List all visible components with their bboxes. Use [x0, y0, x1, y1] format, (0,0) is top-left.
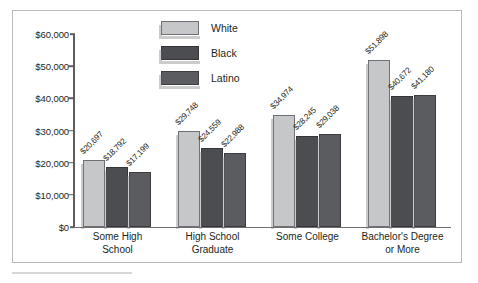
bar-white-3[interactable] — [273, 115, 295, 227]
legend-item-latino[interactable]: Latino — [161, 69, 291, 91]
bar-value-label: $22,988 — [220, 123, 246, 149]
bar-latino-2[interactable] — [224, 153, 246, 227]
bar-group: $20,697$18,792$17,199 — [83, 34, 152, 227]
white-swatch — [161, 21, 199, 35]
y-axis-tick-label: $10,000 — [35, 189, 69, 200]
chart-frame: $0$10,000$20,000$30,000$40,000$50,000$60… — [12, 10, 462, 263]
y-axis-tick-label: $30,000 — [35, 125, 69, 136]
bar-latino-4[interactable] — [414, 95, 436, 227]
bar-value-label: $28,245 — [292, 106, 318, 132]
bar-black-2[interactable] — [201, 148, 223, 227]
chart-legend: WhiteBlackLatino — [161, 19, 291, 94]
y-axis-tick-label: $60,000 — [35, 29, 69, 40]
bar-value-label: $17,199 — [125, 141, 151, 167]
category-label-line: Graduate — [158, 244, 268, 257]
page-edge-artifact — [12, 272, 132, 274]
bar-value-label: $41,180 — [410, 64, 436, 90]
bar-black-3[interactable] — [296, 136, 318, 227]
bar-value-label: $18,792 — [102, 136, 128, 162]
y-axis-labels: $0$10,000$20,000$30,000$40,000$50,000$60… — [13, 11, 69, 262]
legend-item-black[interactable]: Black — [161, 44, 291, 66]
category-label-line: or More — [348, 244, 458, 257]
bar-white-2[interactable] — [178, 131, 200, 227]
legend-item-white[interactable]: White — [161, 19, 291, 41]
latino-swatch — [161, 71, 199, 85]
category-label-line: Some College — [253, 231, 363, 244]
x-axis-category-label: Some College — [253, 231, 363, 244]
bar-value-label: $29,038 — [315, 103, 341, 129]
bar-value-label: $24,559 — [197, 118, 223, 144]
y-axis-tick-label: $20,000 — [35, 157, 69, 168]
x-axis-category-label: Some HighSchool — [63, 231, 173, 256]
category-label-line: School — [63, 244, 173, 257]
bar-white-1[interactable] — [83, 160, 105, 227]
bar-value-label: $20,697 — [79, 130, 105, 156]
legend-item-label: Black — [211, 44, 237, 63]
category-label-line: High School — [158, 231, 268, 244]
category-label-line: Bachelor's Degree — [348, 231, 458, 244]
x-axis-category-label: Bachelor's Degreeor More — [348, 231, 458, 256]
y-axis-tick-label: $50,000 — [35, 61, 69, 72]
bar-value-label: $51,898 — [364, 30, 390, 56]
bar-black-1[interactable] — [106, 167, 128, 227]
category-label-line: Some High — [63, 231, 173, 244]
x-axis-category-label: High SchoolGraduate — [158, 231, 268, 256]
legend-item-label: Latino — [211, 69, 240, 88]
bar-value-label: $40,672 — [387, 66, 413, 92]
black-swatch — [161, 46, 199, 60]
bar-value-label: $29,748 — [174, 101, 200, 127]
bar-group: $51,898$40,672$41,180 — [368, 34, 437, 227]
y-axis-tick-label: $40,000 — [35, 93, 69, 104]
bar-chart-plot-area: $0$10,000$20,000$30,000$40,000$50,000$60… — [13, 11, 461, 262]
bar-latino-3[interactable] — [319, 134, 341, 227]
legend-item-label: White — [211, 19, 238, 38]
bar-latino-1[interactable] — [129, 172, 151, 227]
x-axis-category-labels: Some HighSchoolHigh SchoolGraduateSome C… — [73, 231, 453, 265]
bar-black-4[interactable] — [391, 96, 413, 227]
